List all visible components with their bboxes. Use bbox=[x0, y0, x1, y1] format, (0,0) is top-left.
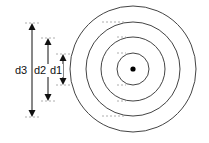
label-d1: d1 bbox=[50, 64, 62, 76]
dimension-d1: d1 bbox=[50, 54, 70, 85]
arrow-down-icon bbox=[29, 110, 36, 117]
arrow-up-icon bbox=[45, 38, 52, 45]
arrow-down-icon bbox=[45, 94, 52, 101]
ring-ticks bbox=[102, 22, 126, 116]
label-d3: d3 bbox=[15, 64, 27, 76]
center-dot bbox=[130, 66, 135, 71]
label-d2: d2 bbox=[34, 64, 46, 76]
arrow-down-icon bbox=[60, 78, 67, 85]
concentric-diagram: d3 d2 d1 bbox=[0, 0, 209, 143]
arrow-up-icon bbox=[29, 23, 36, 30]
arrow-up-icon bbox=[60, 54, 67, 61]
